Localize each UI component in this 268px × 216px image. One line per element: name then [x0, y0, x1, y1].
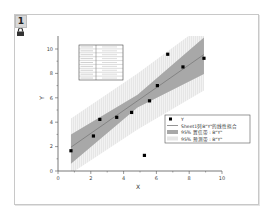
x-tick-label: 6 — [155, 175, 158, 181]
data-point[interactable] — [98, 118, 101, 121]
data-point[interactable] — [202, 57, 205, 60]
y-tick-label: 0 — [50, 168, 53, 174]
y-tick-label: 10 — [47, 46, 53, 52]
y-tick-label: 6 — [50, 95, 53, 101]
data-point[interactable] — [130, 111, 133, 114]
x-axis-title: X — [136, 183, 140, 190]
data-point[interactable] — [156, 84, 159, 87]
chart-plot-area: 02468100246810XYYSheet1列B"Y"的线性拟合95% 置信带… — [0, 0, 268, 216]
y-tick-label: 2 — [50, 143, 53, 149]
data-point[interactable] — [143, 154, 146, 157]
data-point[interactable] — [115, 116, 118, 119]
data-point[interactable] — [166, 53, 169, 56]
x-tick-label: 10 — [219, 175, 225, 181]
x-tick-label: 4 — [122, 175, 125, 181]
x-tick-label: 8 — [188, 175, 191, 181]
y-tick-label: 4 — [50, 119, 53, 125]
data-point[interactable] — [69, 149, 72, 152]
x-tick-label: 0 — [56, 175, 59, 181]
legend-entry-label: Sheet1列B"Y"的线性拟合 — [181, 123, 237, 130]
legend-marker-points — [169, 118, 172, 121]
legend-entry-label: 95% 置信带 : B"Y" — [181, 129, 222, 136]
legend-entry-label: Y — [180, 117, 184, 122]
y-axis-title: Y — [38, 96, 45, 101]
legend-entry-label: 95% 预测带 : B"Y" — [181, 136, 222, 143]
data-point[interactable] — [148, 99, 151, 102]
x-tick-label: 2 — [89, 175, 92, 181]
data-point[interactable] — [181, 65, 184, 68]
legend-marker-confidence — [167, 130, 178, 134]
y-tick-label: 8 — [50, 70, 53, 76]
data-point[interactable] — [92, 134, 95, 137]
legend-marker-prediction — [167, 137, 178, 141]
